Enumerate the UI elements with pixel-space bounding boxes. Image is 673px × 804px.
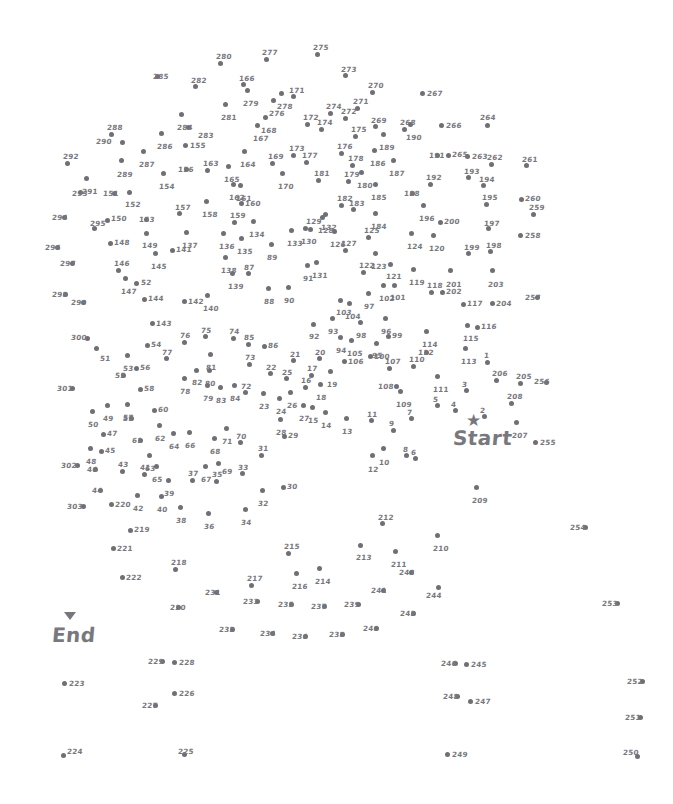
puzzle-dot bbox=[99, 449, 104, 454]
dot-number-label: 144 bbox=[148, 295, 164, 302]
dot-number-label: 109 bbox=[396, 401, 412, 408]
dot-number-label: 70 bbox=[236, 433, 247, 440]
puzzle-dot bbox=[343, 116, 348, 121]
dot-number-label: 215 bbox=[284, 543, 300, 550]
dot-number-label: 263 bbox=[472, 153, 488, 160]
dot-number-label: 58 bbox=[144, 385, 155, 392]
dot-number-label: 273 bbox=[341, 66, 357, 73]
puzzle-dot bbox=[251, 219, 256, 224]
puzzle-dot bbox=[387, 366, 392, 371]
dot-number-label: 187 bbox=[389, 170, 405, 177]
puzzle-dot bbox=[338, 298, 343, 303]
dot-number-label: 198 bbox=[486, 242, 502, 249]
dot-number-label: 114 bbox=[422, 341, 438, 348]
dot-number-label: 150 bbox=[111, 215, 127, 222]
puzzle-dot bbox=[349, 338, 354, 343]
dot-number-label: 156 bbox=[178, 166, 194, 173]
dot-number-label: 284 bbox=[177, 124, 193, 131]
puzzle-dot bbox=[309, 373, 314, 378]
puzzle-dot bbox=[438, 220, 443, 225]
dot-number-label: 72 bbox=[241, 383, 252, 390]
puzzle-dot bbox=[346, 179, 351, 184]
dot-number-label: 26 bbox=[287, 402, 298, 409]
dot-number-label: 288 bbox=[107, 124, 123, 131]
dot-number-label: 236 bbox=[292, 633, 308, 640]
dot-number-label: 142 bbox=[188, 298, 204, 305]
puzzle-dot bbox=[135, 493, 140, 498]
puzzle-dot bbox=[182, 376, 187, 381]
dot-number-label: 261 bbox=[522, 156, 538, 163]
dot-number-label: 18 bbox=[316, 394, 327, 401]
dot-number-label: 238 bbox=[329, 631, 345, 638]
dot-number-label: 158 bbox=[202, 211, 218, 218]
dot-number-label: 234 bbox=[260, 630, 276, 637]
dot-number-label: 242 bbox=[400, 610, 416, 617]
dot-number-label: 174 bbox=[317, 119, 333, 126]
dot-number-label: 232 bbox=[219, 626, 235, 633]
puzzle-dot bbox=[323, 212, 328, 217]
puzzle-dot bbox=[84, 176, 89, 181]
puzzle-dot bbox=[344, 416, 349, 421]
puzzle-dot bbox=[494, 378, 499, 383]
dot-number-label: 7 bbox=[407, 409, 413, 416]
dot-number-label: 217 bbox=[247, 575, 263, 582]
puzzle-dot bbox=[231, 336, 236, 341]
puzzle-dot bbox=[142, 297, 147, 302]
puzzle-dot bbox=[116, 268, 121, 273]
dot-number-label: 143 bbox=[156, 320, 172, 327]
puzzle-dot bbox=[318, 382, 323, 387]
dot-number-label: 133 bbox=[287, 240, 303, 247]
puzzle-dot bbox=[184, 230, 189, 235]
puzzle-dot bbox=[123, 276, 128, 281]
dot-number-label: 22 bbox=[266, 364, 277, 371]
dot-number-label: 251 bbox=[625, 714, 641, 721]
puzzle-dot bbox=[518, 233, 523, 238]
puzzle-dot bbox=[260, 488, 265, 493]
dot-number-label: 181 bbox=[314, 170, 330, 177]
dot-number-label: 55 bbox=[115, 372, 126, 379]
puzzle-dot bbox=[120, 469, 125, 474]
puzzle-dot bbox=[294, 571, 299, 576]
puzzle-dot bbox=[125, 353, 130, 358]
dot-number-label: 185 bbox=[371, 194, 387, 201]
dot-number-label: 191 bbox=[429, 152, 445, 159]
puzzle-dot bbox=[440, 290, 445, 295]
dot-number-label: 48 bbox=[86, 458, 97, 465]
dot-number-label: 186 bbox=[370, 160, 386, 167]
dot-number-label: 145 bbox=[151, 263, 167, 270]
dot-number-label: 243 bbox=[399, 569, 415, 576]
dot-number-label: 294 bbox=[52, 214, 68, 221]
puzzle-dot bbox=[518, 381, 523, 386]
puzzle-dot bbox=[468, 699, 473, 704]
dot-number-label: 159 bbox=[230, 212, 246, 219]
puzzle-dot bbox=[259, 453, 264, 458]
puzzle-dot bbox=[436, 585, 441, 590]
puzzle-dot bbox=[319, 127, 324, 132]
puzzle-dot bbox=[138, 387, 143, 392]
puzzle-canvas: 1234567891011121314151617181920212223242… bbox=[0, 0, 673, 804]
dot-number-label: 54 bbox=[151, 341, 162, 348]
puzzle-dot bbox=[266, 286, 271, 291]
puzzle-dot bbox=[127, 190, 132, 195]
dot-number-label: 66 bbox=[185, 442, 196, 449]
dot-number-label: 153 bbox=[139, 216, 155, 223]
puzzle-dot bbox=[154, 464, 159, 469]
dot-number-label: 190 bbox=[406, 134, 422, 141]
dot-number-label: 60 bbox=[158, 406, 169, 413]
dot-number-label: 104 bbox=[345, 313, 361, 320]
puzzle-dot bbox=[288, 390, 293, 395]
dot-number-label: 216 bbox=[292, 583, 308, 590]
dot-number-label: 76 bbox=[180, 332, 191, 339]
puzzle-dot bbox=[519, 197, 524, 202]
dot-number-label: 94 bbox=[336, 347, 347, 354]
puzzle-dot bbox=[445, 752, 450, 757]
dot-number-label: 180 bbox=[357, 182, 373, 189]
dot-number-label: 194 bbox=[479, 176, 495, 183]
puzzle-dot bbox=[172, 660, 177, 665]
dot-number-label: 280 bbox=[216, 53, 232, 60]
puzzle-dot bbox=[182, 340, 187, 345]
puzzle-dot bbox=[328, 369, 333, 374]
dot-number-label: 239 bbox=[344, 601, 360, 608]
dot-number-label: 118 bbox=[427, 282, 443, 289]
dot-number-label: 12 bbox=[368, 466, 379, 473]
